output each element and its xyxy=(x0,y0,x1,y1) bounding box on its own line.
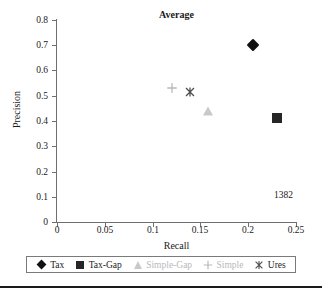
chart-title: Average xyxy=(57,9,296,20)
legend-label-simple-gap: Simple-Gap xyxy=(146,260,192,270)
y-tick-label-0.8: 0.8 xyxy=(14,16,48,26)
legend-label-simple: Simple xyxy=(217,260,244,270)
legend-item-tax-gap[interactable]: Tax-Gap xyxy=(75,259,122,270)
data-point-tax[interactable] xyxy=(247,39,260,52)
legend-label-ures: Ures xyxy=(268,260,286,270)
x-axis-line xyxy=(56,222,297,223)
chart-legend: Tax Tax-Gap Simple-Gap Simple Ures xyxy=(26,256,296,273)
chart-annotation-1382: 1382 xyxy=(243,190,293,200)
x-tick-label-0.05: 0.05 xyxy=(85,226,125,236)
ex-star-marker-icon xyxy=(254,259,265,270)
x-tick-label-0.25: 0.25 xyxy=(276,226,316,236)
y-tick-label-0.2: 0.2 xyxy=(14,168,48,178)
x-tick-label-0.2: 0.2 xyxy=(228,226,268,236)
legend-item-tax[interactable]: Tax xyxy=(36,259,64,270)
x-tick-label-0.15: 0.15 xyxy=(180,226,220,236)
data-point-simple[interactable] xyxy=(166,83,177,94)
bottom-divider xyxy=(0,286,322,288)
legend-item-ures[interactable]: Ures xyxy=(254,259,286,270)
y-tick-label-0.6: 0.6 xyxy=(14,66,48,76)
legend-label-tax: Tax xyxy=(50,260,64,270)
x-tick-label-0.1: 0.1 xyxy=(133,226,173,236)
plus-marker-icon xyxy=(203,259,214,270)
legend-item-simple-gap[interactable]: Simple-Gap xyxy=(132,259,192,270)
data-point-tax-gap[interactable] xyxy=(272,113,282,123)
square-marker-icon xyxy=(75,259,86,270)
legend-label-tax-gap: Tax-Gap xyxy=(89,260,122,270)
y-tick-label-0.1: 0.1 xyxy=(14,193,48,203)
legend-item-simple[interactable]: Simple xyxy=(203,259,244,270)
scatter-chart-figure: Average Precision Recall 0.8 0.7 0.6 0.5… xyxy=(0,0,322,291)
y-tick-label-0.3: 0.3 xyxy=(14,142,48,152)
y-tick-label-0.7: 0.7 xyxy=(14,41,48,51)
triangle-marker-icon xyxy=(132,259,143,270)
x-axis-label: Recall xyxy=(57,240,296,251)
diamond-marker-icon xyxy=(36,259,47,270)
y-tick-label-0.5: 0.5 xyxy=(14,92,48,102)
x-tick-label-0: 0 xyxy=(37,226,77,236)
data-point-simple-gap[interactable] xyxy=(203,106,213,115)
y-tick-label-0.4: 0.4 xyxy=(14,117,48,127)
data-point-ures[interactable] xyxy=(184,86,196,98)
